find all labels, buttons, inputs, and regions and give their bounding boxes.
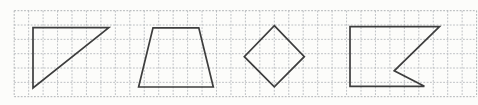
right-triangle [33, 28, 109, 88]
shape-layer [33, 26, 440, 88]
diagram-canvas [0, 0, 478, 105]
notched-flag-pentagon [350, 27, 440, 87]
grid-lines [14, 11, 476, 97]
grid-paper-figure [0, 0, 478, 105]
